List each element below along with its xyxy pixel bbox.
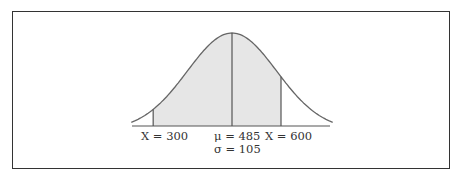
right-x-label: X = 600 [265, 130, 312, 143]
sd-label: σ = 105 [214, 143, 261, 156]
left-x-label: X = 300 [141, 130, 188, 143]
shaded-area [153, 33, 281, 126]
